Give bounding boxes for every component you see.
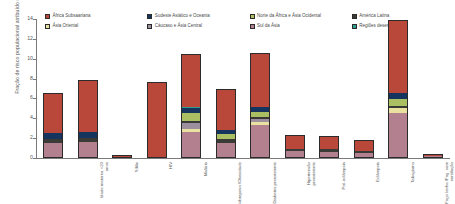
x-tick-label: Pré-eclâmpsia xyxy=(341,162,346,204)
bar-segment xyxy=(388,113,408,158)
bar-segment xyxy=(319,136,339,149)
stacked-bar[interactable] xyxy=(112,155,132,158)
chart-figure: Fração de risco populacional atribuído (… xyxy=(0,0,455,204)
stacked-bar[interactable] xyxy=(147,82,167,158)
y-tick-label: 0 xyxy=(30,155,33,160)
bar-segment xyxy=(181,132,201,158)
bar-segment xyxy=(147,82,167,157)
bar-segment xyxy=(319,152,339,158)
bar-segment xyxy=(285,151,305,158)
x-tick-label: Eclâmpsia xyxy=(375,162,380,204)
x-tick-label: HIV xyxy=(168,162,173,204)
bar-segment xyxy=(216,89,236,130)
bar-segment xyxy=(181,54,201,107)
bar-segment xyxy=(78,80,98,132)
x-tick-label: Tabagismo xyxy=(410,162,415,204)
bar-group xyxy=(36,19,450,158)
x-tick-label: Sífilis xyxy=(134,162,139,204)
bar-segment xyxy=(250,53,270,107)
bar-segment xyxy=(43,93,63,133)
y-axis-title: Fração de risco populacional atribuído (… xyxy=(14,0,20,118)
stacked-bar[interactable] xyxy=(78,80,98,158)
stacked-bar[interactable] xyxy=(319,136,339,158)
y-tick-label: 14 xyxy=(27,16,33,21)
bar-segment xyxy=(216,143,236,158)
stacked-bar[interactable] xyxy=(181,54,201,158)
x-axis-labels: Idade materna <20 anosSífilisHIVMaláriaS… xyxy=(36,160,450,204)
bar-segment xyxy=(112,157,132,158)
bar-segment xyxy=(388,99,408,106)
plot-area: 02468101214 xyxy=(36,19,450,158)
bar-segment xyxy=(147,157,167,158)
stacked-bar[interactable] xyxy=(216,89,236,158)
y-tick-label: 6 xyxy=(30,96,33,101)
stacked-bar[interactable] xyxy=(43,93,63,158)
bar-segment xyxy=(250,125,270,158)
y-tick-mark xyxy=(33,158,36,159)
bar-segment xyxy=(354,153,374,158)
bar-segment xyxy=(354,140,374,150)
x-tick-label: Malária xyxy=(203,162,208,204)
bar-segment xyxy=(43,143,63,158)
bar-segment xyxy=(181,113,201,121)
stacked-bar[interactable] xyxy=(354,140,374,158)
y-tick-label: 10 xyxy=(27,56,33,61)
x-tick-label: Sobrepeso /Obesidade xyxy=(237,162,242,204)
y-tick-label: 4 xyxy=(30,116,33,121)
y-tick-label: 8 xyxy=(30,76,33,81)
bar-segment xyxy=(423,156,443,158)
x-tick-label: Hipertensão preexistente xyxy=(306,162,316,204)
y-tick-label: 2 xyxy=(30,136,33,141)
x-tick-label: Diabetes preexistente xyxy=(272,162,277,204)
stacked-bar[interactable] xyxy=(388,20,408,158)
x-tick-label: Fogo lenha /Fog. sem ventilação xyxy=(444,162,454,204)
stacked-bar[interactable] xyxy=(423,154,443,158)
x-tick-label: Idade materna <20 anos xyxy=(99,162,109,204)
y-tick-label: 12 xyxy=(27,36,33,41)
bar-segment xyxy=(78,142,98,158)
x-axis-line xyxy=(36,158,450,159)
bar-segment xyxy=(388,20,408,93)
bar-segment xyxy=(285,135,305,148)
stacked-bar[interactable] xyxy=(285,135,305,158)
stacked-bar[interactable] xyxy=(250,53,270,158)
